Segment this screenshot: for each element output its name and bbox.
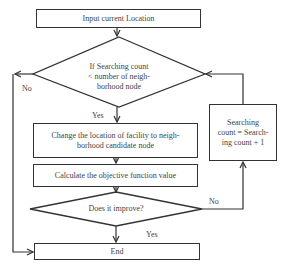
decision2-yes-label: Yes [146, 230, 158, 240]
decision2-text: Does it improve? [76, 204, 156, 214]
increment-box-line-1: Searching [227, 118, 259, 128]
increment-count-box: Searching count = Search- ing count + 1 [209, 104, 277, 161]
increment-box-line-3: ing count + 1 [222, 138, 265, 148]
end-box: End [34, 243, 200, 260]
arrow-increment-to-decision1 [206, 74, 243, 104]
decision1-yes-label: Yes [92, 111, 104, 121]
decision1-line-1: If Searching count [79, 62, 159, 72]
calculate-box-label: Calculate the objective function value [55, 171, 176, 181]
increment-box-line-2: count = Search- [218, 128, 269, 138]
change-box-line-1: Change the location of facility to neigh… [52, 131, 180, 141]
start-box-label: Input current Location [83, 14, 155, 24]
end-box-label: End [111, 247, 124, 257]
decision1-no-label: No [22, 84, 32, 94]
change-location-box: Change the location of facility to neigh… [33, 123, 198, 158]
arrow-no-to-end [13, 74, 33, 252]
decision1-line-2: < number of neigh- [79, 72, 159, 82]
change-box-line-2: borhood candidate node [77, 141, 154, 151]
decision2-no-label: No [209, 197, 219, 207]
calculate-objective-box: Calculate the objective function value [33, 164, 198, 187]
start-box: Input current Location [36, 9, 201, 28]
decision1-text: If Searching count < number of neigh- bo… [79, 62, 159, 92]
decision1-line-3: borhood node [79, 82, 159, 92]
